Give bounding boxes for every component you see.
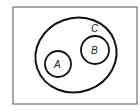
set-c-label: C: [91, 23, 99, 34]
universal-set-rectangle: [13, 7, 137, 104]
set-b-label: B: [91, 45, 98, 56]
venn-diagram: C A B: [0, 0, 140, 112]
set-c-ellipse: [25, 6, 127, 104]
set-a-label: A: [53, 59, 61, 70]
